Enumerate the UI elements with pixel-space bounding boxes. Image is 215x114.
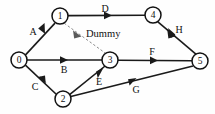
node-2[interactable]: 2 bbox=[55, 91, 71, 107]
edge-Dummy-label: Dummy bbox=[86, 28, 121, 39]
node-3[interactable]: 3 bbox=[102, 52, 118, 68]
node-0-label: 0 bbox=[17, 55, 22, 65]
node-2-label: 2 bbox=[61, 94, 66, 104]
edge-D: D bbox=[68, 3, 145, 20]
edge-C: C bbox=[25, 65, 56, 94]
node-4[interactable]: 4 bbox=[145, 7, 161, 23]
edge-A: A bbox=[25, 22, 55, 55]
node-5[interactable]: 5 bbox=[192, 53, 208, 69]
edge-F-arrowhead bbox=[150, 57, 158, 65]
edge-B-label: B bbox=[61, 64, 68, 75]
node-3-label: 3 bbox=[108, 55, 113, 65]
edge-A-arrowhead bbox=[38, 22, 50, 34]
edge-H-label: H bbox=[175, 24, 182, 35]
node-1[interactable]: 1 bbox=[52, 8, 68, 24]
edge-G-label: G bbox=[132, 84, 139, 95]
edge-Dummy: Dummy bbox=[64, 23, 121, 53]
edge-E: E bbox=[70, 66, 106, 95]
node-0[interactable]: 0 bbox=[11, 52, 27, 68]
edge-C-arrowhead-fill bbox=[38, 76, 46, 84]
node-1-label: 1 bbox=[58, 11, 63, 21]
node-5-label: 5 bbox=[198, 56, 203, 66]
edge-B: B bbox=[27, 56, 102, 74]
edge-H: H bbox=[158, 22, 197, 55]
edge-F: F bbox=[118, 46, 192, 65]
edge-A-label: A bbox=[29, 26, 37, 37]
edge-C-label: C bbox=[32, 81, 39, 92]
network-diagram: A B C D E F bbox=[0, 0, 215, 114]
network-diagram-canvas: A B C D E F bbox=[0, 0, 215, 114]
edge-C-line bbox=[25, 65, 56, 94]
edge-E-label: E bbox=[96, 76, 102, 87]
edge-D-label: D bbox=[101, 3, 108, 14]
node-4-label: 4 bbox=[151, 10, 156, 20]
edge-G: G bbox=[71, 66, 193, 97]
edge-F-label: F bbox=[149, 46, 155, 57]
